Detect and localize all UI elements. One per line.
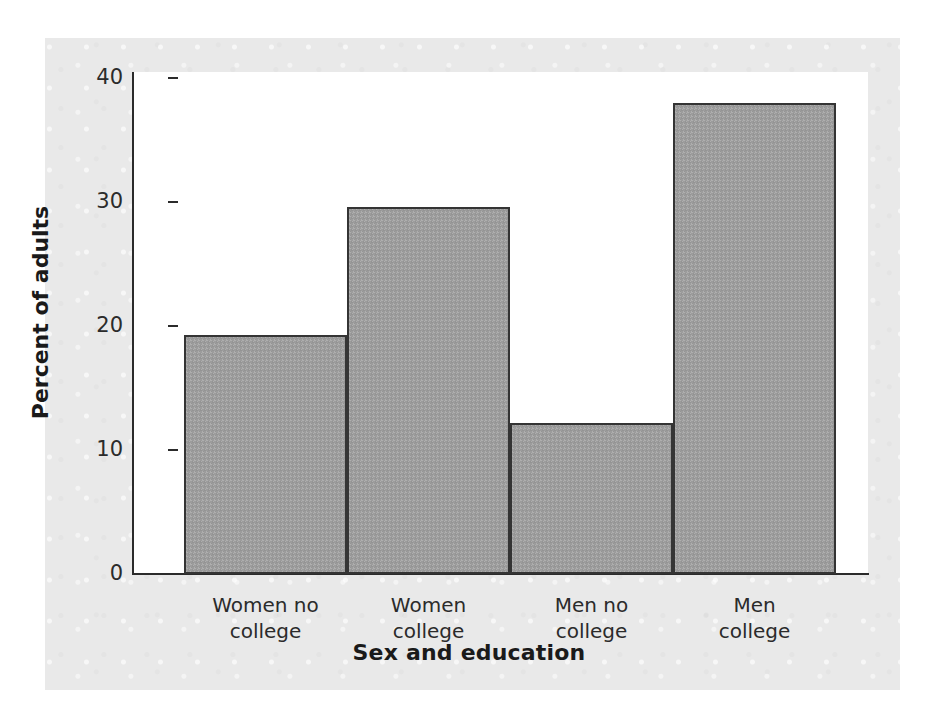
x-category-label-line-1: Men no	[510, 592, 673, 618]
bar-men-college	[673, 103, 836, 574]
x-axis-title: Sex and education	[0, 640, 938, 665]
x-category-label-women-no-college: Women no college	[184, 592, 347, 645]
x-category-label-line-1: Men	[673, 592, 836, 618]
x-category-label-women-college: Women college	[347, 592, 510, 645]
x-category-label-line-1: Women	[347, 592, 510, 618]
x-category-label-line-1: Women no	[184, 592, 347, 618]
bar-women-college	[347, 207, 510, 574]
bar-women-no-college	[184, 335, 347, 574]
bar-chart-figure: 40 30 20 10 0 Women no college Women col…	[0, 0, 938, 713]
x-category-label-men-college: Men college	[673, 592, 836, 645]
x-category-label-men-no-college: Men no college	[510, 592, 673, 645]
bar-men-no-college	[510, 423, 673, 574]
y-axis-title: Percent of adults	[28, 163, 53, 463]
